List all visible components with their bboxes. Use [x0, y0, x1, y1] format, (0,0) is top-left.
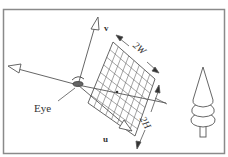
- v-axis-label: v: [104, 23, 109, 33]
- diagram-canvas: v Eye u 2W 2H: [0, 0, 228, 157]
- image-center-dot: [116, 91, 119, 94]
- u-axis-label: u: [103, 134, 108, 144]
- eye-label: Eye: [34, 102, 51, 114]
